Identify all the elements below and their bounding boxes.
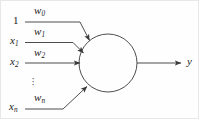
output-label-y: y [187, 56, 192, 67]
input-label-xn: xn [9, 101, 18, 112]
input-label-bias: 1 [13, 15, 19, 26]
input-label-x1: x1 [10, 35, 19, 46]
ellipsis-dot-3: · [28, 83, 38, 86]
vertical-ellipsis: · · · [28, 77, 38, 87]
weight-label-w2: w2 [34, 47, 45, 58]
neuron-diagram-svg [1, 1, 199, 119]
weight-label-w1: w1 [34, 26, 45, 37]
weight-label-wn: wn [34, 92, 45, 103]
input-label-x2: x2 [10, 56, 19, 67]
weight-label-w0: w0 [34, 5, 45, 16]
neuron-body-circle [79, 34, 137, 92]
neuron-diagram: 1 x1 x2 xn w0 w1 w2 wn · · · y [0, 0, 199, 119]
